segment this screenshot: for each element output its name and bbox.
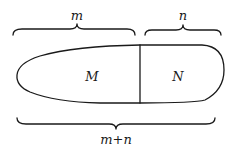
label-n: n	[179, 8, 187, 23]
set-outline	[17, 45, 224, 103]
region-label-M: M	[84, 69, 99, 84]
brace-m	[13, 24, 135, 35]
region-label-N: N	[171, 69, 184, 84]
label-m: m	[71, 8, 83, 23]
brace-n	[145, 25, 221, 35]
label-m-plus-n: m+n	[100, 132, 132, 147]
partition-diagram: m n M N m+n	[0, 0, 238, 154]
brace-m-plus-n	[17, 118, 215, 129]
